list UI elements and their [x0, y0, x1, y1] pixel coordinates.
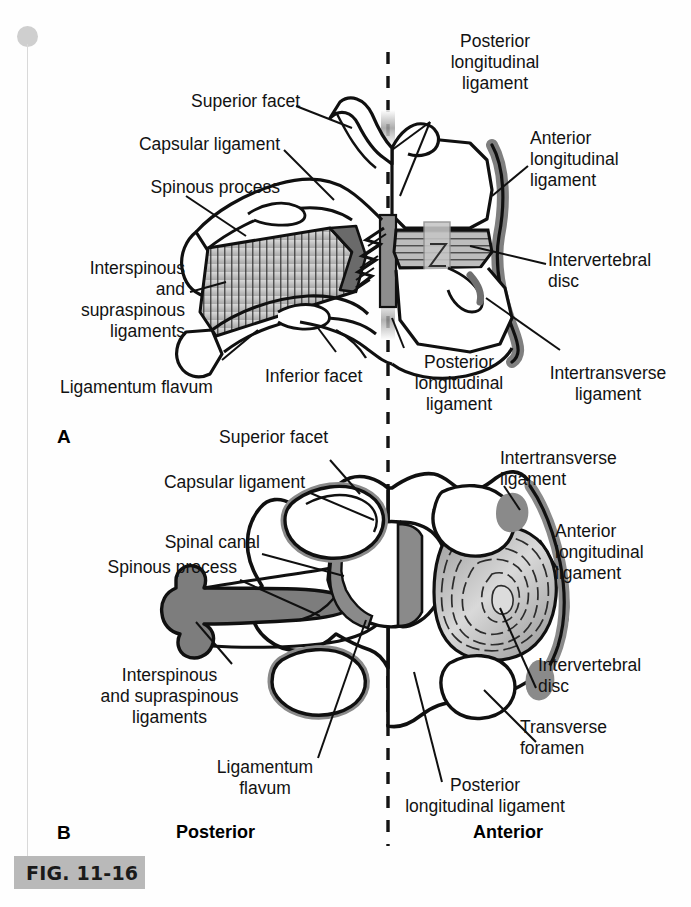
intertransverse-ligament-b: [496, 493, 528, 533]
pll-shading-lower: [381, 300, 395, 340]
pedicle-lower-a: [336, 330, 366, 358]
label-anterior-longitudinal-ligament-a: Anterior longitudinal ligament: [530, 128, 690, 191]
label-intervertebral-disc-a: Intervertebral disc: [548, 250, 688, 292]
label-ligamentum-flavum-a: Ligamentum flavum: [60, 378, 270, 398]
label-transverse-foramen-b: Transverse foramen: [520, 717, 670, 759]
spinal-canal-b: [328, 521, 400, 626]
transverse-foramen-upper-right-b: [433, 486, 514, 556]
orientation-label-posterior: Posterior: [176, 822, 255, 843]
figure-caption-bar: FIG. 11-16: [14, 856, 145, 889]
lamina-lower-edge-b: [212, 624, 378, 647]
label-interspinous-supraspinous-a: Interspinous and supraspinous ligaments: [40, 258, 185, 342]
upper-pedicle: [392, 124, 438, 156]
pll-shading-upper: [381, 110, 395, 146]
inferior-facet-a: [278, 305, 330, 330]
capsular-ligament-a: [206, 208, 352, 250]
panel-b-leader-lines: [196, 460, 558, 782]
posterior-longitudinal-ligament-b: [398, 524, 422, 626]
transverse-foramen-lower-right-b: [441, 656, 515, 719]
label-capsular-ligament-a: Capsular ligament: [55, 135, 280, 155]
lower-vertebral-body: [396, 268, 512, 352]
label-capsular-ligament-b: Capsular ligament: [70, 473, 305, 493]
ligamentum-flavum-fibers-a: [356, 228, 384, 288]
spinous-process-b: [162, 566, 352, 658]
superior-facet-b: [285, 486, 383, 558]
transverse-foramen-left-rim-b: [272, 650, 365, 716]
transverse-process-a: [448, 268, 482, 312]
posterior-longitudinal-ligament-strip-a: [380, 215, 396, 307]
superior-articular-process-a: [330, 98, 392, 164]
ligamentum-flavum-a: [330, 226, 366, 292]
label-posterior-longitudinal-ligament-a-bottom: Posterior longitudinal ligament: [398, 352, 520, 415]
panel-letter-b: B: [57, 822, 71, 844]
inferior-facet-edge-a: [224, 318, 376, 352]
vertebra-outline-left-b: [248, 476, 389, 668]
label-intervertebral-disc-b: Intervertebral disc: [538, 655, 688, 697]
superior-facet-rim-b: [285, 486, 383, 558]
label-posterior-longitudinal-ligament-b: Posterior longitudinal ligament: [355, 775, 615, 817]
ligamentum-flavum-b: [330, 552, 372, 628]
label-intertransverse-ligament-a: Intertransverse ligament: [528, 363, 688, 405]
label-superior-facet-a: Superior facet: [150, 92, 300, 112]
anterior-longitudinal-ligament-band-a: [492, 145, 518, 362]
figure-page: Superior facet Capsular ligament Spinous…: [0, 0, 691, 907]
spinous-process-upper-a: [182, 232, 214, 296]
intervertebral-disc-b: [434, 525, 556, 661]
pll-band-zigzag-a: [430, 244, 446, 305]
facet-joint-capsule-a: [248, 203, 305, 225]
margin-rule-line: [27, 44, 28, 856]
label-inferior-facet-a: Inferior facet: [265, 367, 415, 387]
lamina-inner-edge-b: [300, 598, 334, 620]
label-interspinous-supraspinous-b: Interspinous and supraspinous ligaments: [72, 665, 267, 728]
intertransverse-ligament-a: [470, 275, 481, 302]
orientation-label-anterior: Anterior: [473, 822, 543, 843]
label-ligamentum-flavum-b: Ligamentum flavum: [190, 757, 340, 799]
label-anterior-longitudinal-ligament-b: Anterior longitudinal ligament: [555, 521, 690, 584]
label-intertransverse-ligament-b: Intertransverse ligament: [500, 448, 665, 490]
label-spinal-canal-b: Spinal canal: [85, 533, 260, 553]
lower-lamina-edge-a: [212, 296, 368, 330]
interspinous-supraspinous-ligaments-a: [200, 228, 354, 336]
figure-number-text: FIG. 11-16: [14, 862, 138, 884]
label-superior-facet-b: Superior facet: [160, 428, 328, 448]
intervertebral-disc-a: [394, 230, 492, 268]
superior-facet-surface-a: [336, 112, 376, 168]
panel-letter-a: A: [57, 426, 71, 448]
upper-vertebral-body: [392, 139, 492, 228]
capsular-ligament-b: [306, 495, 377, 532]
label-spinous-process-a: Spinous process: [55, 178, 280, 198]
transverse-foramen-left-b: [272, 650, 365, 716]
spinal-canal-right-b: [398, 522, 447, 627]
ligamentum-flavum-hatching-a: [352, 234, 386, 292]
label-spinous-process-b: Spinous process: [55, 558, 237, 578]
lower-arch-a: [300, 322, 392, 364]
anterior-longitudinal-ligament-outline-a: [492, 145, 518, 362]
label-posterior-longitudinal-ligament-a-top: Posterior longitudinal ligament: [420, 31, 570, 94]
pll-vertical-band-a: [424, 222, 450, 340]
